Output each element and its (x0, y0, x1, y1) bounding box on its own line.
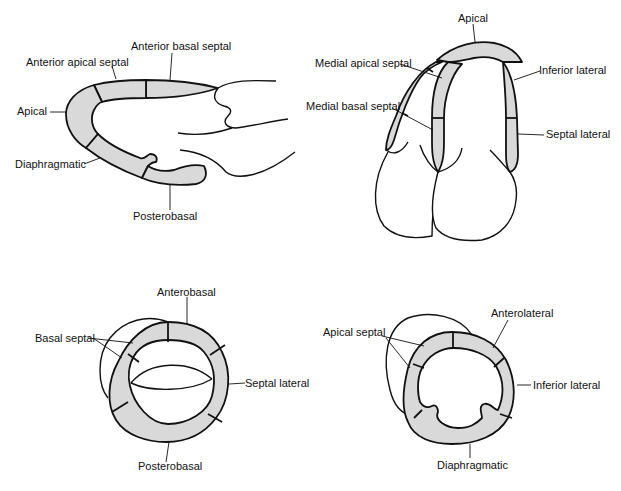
leader-apical-tr (473, 24, 475, 42)
leader-anterolateral (493, 320, 508, 348)
label-posterobasal-bl: Posterobasal (138, 460, 202, 472)
label-medial-apical-septal: Medial apical septal (315, 57, 412, 69)
segment-anterior-basal-septal (146, 80, 218, 98)
label-inferior-lateral-tr: Inferior lateral (539, 64, 606, 76)
outline-atrium (215, 88, 288, 128)
label-posterobasal: Posterobasal (133, 210, 197, 222)
leader-diaphragmatic (84, 158, 100, 164)
label-anterior-basal-septal: Anterior basal septal (131, 40, 231, 52)
outline-valve-upper (131, 365, 212, 383)
label-diaphragmatic: Diaphragmatic (15, 158, 86, 170)
segment-ring-br (403, 332, 513, 444)
label-medial-basal-septal: Medial basal septal (306, 100, 400, 112)
segment-posterobasal (142, 165, 206, 185)
segment-anterior-apical-septal (94, 80, 146, 102)
leader-septal-lateral-tr (518, 134, 544, 135)
outline-inner (178, 128, 232, 134)
heart-segments-diagram: Anterior apical septal Anterior basal se… (0, 0, 621, 491)
label-septal-lateral-tr: Septal lateral (546, 128, 610, 140)
leader-anterior-basal-septal (170, 53, 172, 80)
leader-septal-lateral-bl (229, 383, 245, 384)
outline-rv-br (386, 315, 472, 416)
label-apical-tr: Apical (458, 12, 488, 24)
segment-inferior-lateral (503, 62, 518, 172)
panel-top-right: Apical Medial apical septal Inferior lat… (306, 12, 610, 241)
leader-posterobasal-bl (166, 442, 169, 462)
label-basal-septal: Basal septal (35, 332, 95, 344)
panel-top-left: Anterior apical septal Anterior basal se… (15, 40, 295, 222)
outline-left-chamber (375, 152, 438, 238)
panel-bottom-right: Anterolateral Apical septal Inferior lat… (323, 307, 600, 471)
leader-inferior-lateral (514, 71, 540, 80)
label-anterolateral: Anterolateral (491, 307, 553, 319)
label-inferior-lateral-br: Inferior lateral (533, 379, 600, 391)
label-diaphragmatic-br: Diaphragmatic (437, 459, 508, 471)
outline-upper (218, 81, 276, 88)
label-apical: Apical (17, 105, 47, 117)
panel-bottom-left: Anterobasal Basal septal Septal lateral … (35, 286, 309, 472)
outline-right-chamber (432, 172, 516, 241)
label-anterobasal: Anterobasal (157, 286, 216, 298)
label-apical-septal: Apical septal (323, 326, 385, 338)
segment-apical (437, 42, 522, 62)
label-anterior-apical-septal: Anterior apical septal (26, 56, 129, 68)
outline-valve-lower (131, 379, 212, 389)
label-septal-lateral-bl: Septal lateral (245, 377, 309, 389)
segment-medial-apical-septal (432, 62, 462, 172)
